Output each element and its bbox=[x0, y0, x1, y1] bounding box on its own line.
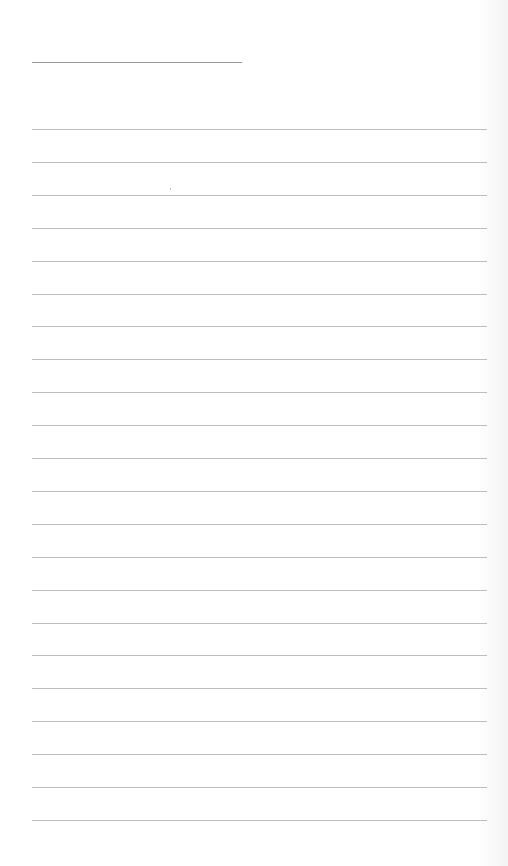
ruled-line bbox=[32, 590, 487, 591]
ruled-line bbox=[32, 688, 487, 689]
header-write-line bbox=[32, 62, 242, 63]
ruled-line bbox=[32, 754, 487, 755]
ruled-line bbox=[32, 524, 487, 525]
paper-speck bbox=[170, 188, 171, 190]
lined-paper-page bbox=[0, 0, 508, 866]
ruled-line bbox=[32, 129, 487, 130]
ruled-line bbox=[32, 721, 487, 722]
ruled-line bbox=[32, 787, 487, 788]
ruled-line bbox=[32, 294, 487, 295]
ruled-line bbox=[32, 326, 487, 327]
ruled-line bbox=[32, 557, 487, 558]
ruled-line bbox=[32, 228, 487, 229]
ruled-line bbox=[32, 655, 487, 656]
ruled-line bbox=[32, 195, 487, 196]
ruled-line bbox=[32, 820, 487, 821]
ruled-line bbox=[32, 261, 487, 262]
ruled-line bbox=[32, 491, 487, 492]
ruled-line bbox=[32, 425, 487, 426]
ruled-line bbox=[32, 359, 487, 360]
ruled-line bbox=[32, 458, 487, 459]
ruled-line bbox=[32, 392, 487, 393]
ruled-line bbox=[32, 623, 487, 624]
ruled-line bbox=[32, 162, 487, 163]
